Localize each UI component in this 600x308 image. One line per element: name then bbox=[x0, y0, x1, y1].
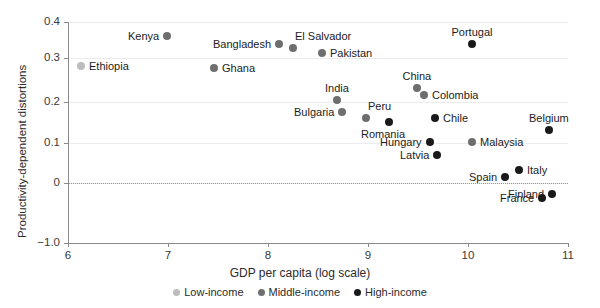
x-tick-mark bbox=[68, 243, 69, 247]
y-axis-line bbox=[68, 22, 69, 244]
gridline bbox=[68, 58, 568, 59]
data-point-label: Finland bbox=[508, 189, 544, 200]
data-point[interactable] bbox=[385, 118, 393, 126]
data-point[interactable] bbox=[275, 40, 283, 48]
y-tick-label: 0 bbox=[24, 177, 60, 188]
legend-dot-icon bbox=[173, 289, 180, 296]
data-point-label: El Salvador bbox=[295, 31, 351, 42]
legend-item[interactable]: Low-income bbox=[173, 286, 243, 298]
legend-label: High-income bbox=[365, 286, 427, 298]
x-tick-label: 10 bbox=[448, 249, 488, 261]
data-point-label: Spain bbox=[469, 172, 497, 183]
x-tick-label: 9 bbox=[348, 249, 388, 261]
data-point-label: Latvia bbox=[400, 150, 429, 161]
data-point[interactable] bbox=[163, 32, 171, 40]
data-point[interactable] bbox=[413, 84, 421, 92]
legend-label: Middle-income bbox=[269, 286, 341, 298]
y-tick-mark bbox=[64, 183, 68, 184]
data-point[interactable] bbox=[545, 126, 553, 134]
data-point[interactable] bbox=[548, 190, 556, 198]
y-tick-label: 0.1 bbox=[24, 137, 60, 148]
x-tick-mark bbox=[268, 243, 269, 247]
x-tick-label: 11 bbox=[548, 249, 588, 261]
x-tick-mark bbox=[168, 243, 169, 247]
data-point-label: Chile bbox=[443, 113, 468, 124]
data-point-label: Peru bbox=[368, 101, 391, 112]
gridline bbox=[68, 22, 568, 23]
data-point[interactable] bbox=[431, 114, 439, 122]
legend-item[interactable]: Middle-income bbox=[258, 286, 341, 298]
x-tick-label: 6 bbox=[48, 249, 88, 261]
y-axis-title: Productivity-dependent distortions bbox=[16, 65, 28, 238]
data-point[interactable] bbox=[420, 91, 428, 99]
data-point[interactable] bbox=[333, 96, 341, 104]
legend-item[interactable]: High-income bbox=[354, 286, 427, 298]
y-tick-mark bbox=[64, 22, 68, 23]
data-point[interactable] bbox=[338, 108, 346, 116]
x-tick-mark bbox=[568, 243, 569, 247]
data-point[interactable] bbox=[515, 166, 523, 174]
y-tick-label: 0.3 bbox=[24, 52, 60, 63]
data-point-label: India bbox=[325, 83, 349, 94]
data-point[interactable] bbox=[501, 173, 509, 181]
x-tick-mark bbox=[368, 243, 369, 247]
scatter-chart: 0.40.30.20.10−1.0 67891011 Productivity-… bbox=[0, 0, 600, 308]
x-tick-mark bbox=[468, 243, 469, 247]
data-point[interactable] bbox=[210, 64, 218, 72]
legend-dot-icon bbox=[258, 289, 265, 296]
data-point-label: Bulgaria bbox=[294, 107, 334, 118]
data-point-label: China bbox=[403, 71, 432, 82]
data-point[interactable] bbox=[433, 151, 441, 159]
data-point-label: Hungary bbox=[380, 137, 422, 148]
data-point[interactable] bbox=[362, 114, 370, 122]
y-tick-mark bbox=[64, 102, 68, 103]
zero-line bbox=[68, 183, 568, 184]
y-tick-mark bbox=[64, 143, 68, 144]
data-point-label: Ethiopia bbox=[89, 61, 129, 72]
y-tick-mark bbox=[64, 58, 68, 59]
legend-dot-icon bbox=[354, 289, 361, 296]
y-tick-label: 0.4 bbox=[24, 16, 60, 27]
data-point-label: Malaysia bbox=[480, 137, 523, 148]
x-tick-label: 7 bbox=[148, 249, 188, 261]
data-point-label: Bangladesh bbox=[213, 39, 271, 50]
data-point[interactable] bbox=[289, 44, 297, 52]
data-point[interactable] bbox=[318, 49, 326, 57]
legend-label: Low-income bbox=[184, 286, 243, 298]
data-point[interactable] bbox=[468, 138, 476, 146]
data-point[interactable] bbox=[468, 40, 476, 48]
data-point[interactable] bbox=[426, 138, 434, 146]
data-point-label: Italy bbox=[527, 165, 547, 176]
data-point-label: Belgium bbox=[529, 113, 569, 124]
data-point-label: Pakistan bbox=[330, 48, 372, 59]
x-axis-line bbox=[68, 243, 568, 244]
chart-legend: Low-incomeMiddle-incomeHigh-income bbox=[0, 286, 600, 298]
data-point-label: Colombia bbox=[432, 90, 478, 101]
x-axis-title: GDP per capita (log scale) bbox=[0, 266, 600, 280]
data-point-label: Kenya bbox=[128, 31, 159, 42]
data-point[interactable] bbox=[77, 62, 85, 70]
y-tick-label: −1.0 bbox=[24, 237, 60, 248]
data-point-label: Ghana bbox=[222, 63, 255, 74]
gridline bbox=[68, 102, 568, 103]
data-point-label: Portugal bbox=[452, 27, 493, 38]
x-tick-label: 8 bbox=[248, 249, 288, 261]
y-tick-label: 0.2 bbox=[24, 96, 60, 107]
